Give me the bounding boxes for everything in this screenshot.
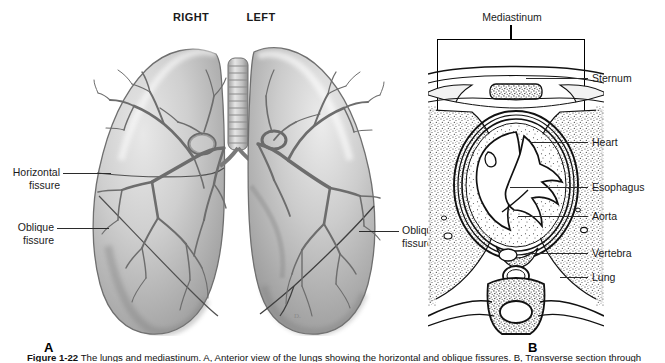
label-oblique-fissure-left: Oblique fissure (0, 221, 54, 246)
leader-sternum (526, 78, 588, 79)
leader-oblique-fissure-left (57, 228, 109, 229)
leader-heart (530, 142, 588, 143)
panel-a-lungs: RIGHT LEFT (0, 0, 420, 345)
figure-caption: Figure 1-22 The lungs and mediastinum. A… (27, 352, 647, 362)
label-vertebra: Vertebra (592, 247, 632, 260)
label-aorta: Aorta (592, 210, 617, 223)
esophagus-lumen (499, 249, 517, 261)
label-oblique-fissure-left-line1: Oblique (18, 221, 54, 233)
leader-horizontal-fissure (63, 173, 111, 174)
sternum-bone (490, 84, 542, 99)
figure-canvas: RIGHT LEFT (0, 0, 665, 363)
leader-lung (560, 277, 588, 278)
lungs-illustration: D. (88, 36, 388, 336)
leader-oblique-fissure-right (359, 231, 399, 232)
label-horizontal-fissure-line1: Horizontal (13, 166, 60, 178)
leader-mediastinum (510, 25, 512, 40)
label-sternum: Sternum (592, 72, 632, 85)
vertebral-canal (500, 301, 532, 323)
leader-esophagus (510, 187, 588, 188)
figure-caption-prefix: Figure 1-22 (27, 352, 78, 362)
label-left-lung-header: LEFT (237, 11, 285, 24)
label-right-lung-header: RIGHT (163, 11, 219, 24)
label-horizontal-fissure: Horizontal fissure (0, 166, 60, 191)
vertebra (488, 278, 545, 334)
label-oblique-fissure-left-line2: fissure (23, 234, 54, 246)
label-heart: Heart (592, 136, 618, 149)
label-lung: Lung (592, 271, 615, 284)
right-lung (93, 49, 226, 334)
panel-b-thorax-section: Mediastinum (420, 0, 665, 345)
svg-text:D.: D. (294, 312, 301, 320)
left-lung: D. (248, 48, 384, 335)
leader-aorta (518, 216, 588, 217)
label-esophagus: Esophagus (592, 181, 645, 194)
label-horizontal-fissure-line2: fissure (29, 179, 60, 191)
label-mediastinum: Mediastinum (466, 11, 558, 24)
leader-vertebra (526, 253, 588, 254)
anterior-chest-wall (428, 67, 604, 109)
figure-caption-text: The lungs and mediastinum. A, Anterior v… (27, 352, 641, 362)
